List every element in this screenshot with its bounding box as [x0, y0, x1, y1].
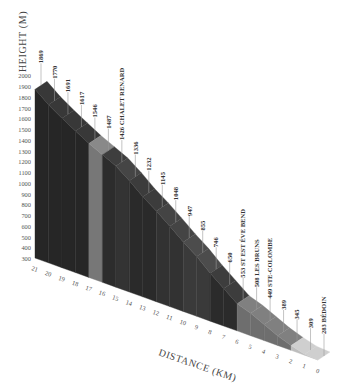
y-tick-label: 500	[21, 234, 31, 241]
y-tick-label: 1600	[18, 115, 31, 122]
height-label: 283 BÉDOIN	[320, 296, 327, 334]
x-tick-label: 11	[166, 313, 174, 322]
profile-segment	[116, 166, 129, 292]
height-label: 1336	[132, 141, 139, 155]
y-tick-label: 1200	[18, 158, 31, 165]
height-label: 389	[280, 299, 287, 310]
x-tick-label: 3	[275, 352, 280, 360]
profile-segment	[102, 155, 115, 287]
height-label: 1546	[91, 104, 98, 118]
y-tick-label: 1900	[18, 83, 31, 90]
height-label: 1145	[159, 171, 166, 185]
x-tick-label: 6	[234, 338, 239, 346]
x-tick-label: 1	[302, 362, 307, 370]
x-tick-label: 9	[194, 323, 199, 331]
x-tick-label: 4	[261, 347, 267, 355]
y-tick-label: 1300	[18, 148, 31, 155]
y-tick-label: 1000	[18, 180, 31, 187]
y-tick-label: 600	[21, 223, 31, 230]
profile-segment	[48, 105, 61, 268]
height-label: 345	[293, 309, 300, 320]
x-tick-label: 21	[31, 264, 39, 273]
x-tick-label: 2	[288, 357, 293, 365]
x-tick-label: 18	[71, 279, 79, 288]
x-tick-label: 7	[221, 333, 227, 341]
y-tick-label: 300	[21, 255, 31, 262]
x-tick-label: 14	[125, 298, 134, 307]
height-label: 553 ST EST ÉVE BEND	[239, 209, 246, 278]
height-label: 1487	[105, 115, 112, 129]
height-label: 947	[186, 205, 193, 216]
y-tick-label: 1500	[18, 126, 31, 133]
elevation-profile-chart: HEIGHT (M) 20001900180017001600150014001…	[0, 0, 345, 385]
y-tick-label: 400	[21, 244, 31, 251]
y-axis-title: HEIGHT (M)	[17, 11, 29, 72]
x-tick-label: 0	[315, 367, 320, 375]
y-tick-label: 700	[21, 212, 31, 219]
profile-segment	[62, 118, 75, 272]
y-tick-label: 1800	[18, 94, 31, 101]
x-tick-label: 17	[85, 284, 94, 293]
height-label: 1770	[51, 65, 58, 79]
height-label: 449 STE-COLOMBE	[266, 237, 273, 298]
profile-segment	[129, 181, 142, 297]
x-tick-label: 13	[138, 303, 146, 312]
profile-segment	[143, 197, 156, 302]
profile-segment	[156, 211, 169, 307]
x-tick-label: 12	[152, 308, 160, 317]
y-tick-label: 2000	[18, 72, 31, 79]
profile-segment	[89, 143, 102, 282]
height-label: 309	[307, 318, 314, 329]
y-axis-ticks: 2000190018001700160015001400130012001100…	[18, 72, 31, 262]
y-axis-title-text: HEIGHT (M)	[17, 11, 29, 72]
y-tick-label: 1100	[18, 169, 31, 176]
profile-segment	[75, 131, 88, 277]
x-tick-label: 8	[207, 328, 212, 336]
x-tick-label: 5	[248, 343, 253, 351]
height-label: 1232	[145, 157, 152, 171]
height-label: 1048	[172, 186, 179, 200]
x-axis-title: DISTANCE (KM)	[157, 346, 238, 384]
height-label: 746	[212, 237, 219, 248]
y-tick-label: 1400	[18, 137, 31, 144]
height-label: 1691	[64, 79, 71, 92]
x-tick-label: 20	[44, 269, 52, 278]
x-tick-label: 19	[58, 274, 66, 283]
x-tick-label: 16	[98, 289, 106, 298]
x-tick-label: 10	[179, 318, 187, 327]
height-label: 1617	[78, 91, 85, 105]
y-tick-label: 900	[21, 191, 31, 198]
height-label: 508 LES BRUNS	[253, 239, 260, 287]
y-tick-label: 800	[21, 201, 31, 208]
height-label: 855	[199, 220, 206, 231]
x-tick-label: 15	[112, 293, 120, 302]
profile-segment	[35, 89, 48, 263]
height-label: 650	[226, 252, 233, 263]
y-tick-label: 1700	[18, 105, 31, 112]
height-label: 1426 CHALET RENARD	[118, 67, 125, 140]
height-label: 1869	[37, 49, 44, 63]
